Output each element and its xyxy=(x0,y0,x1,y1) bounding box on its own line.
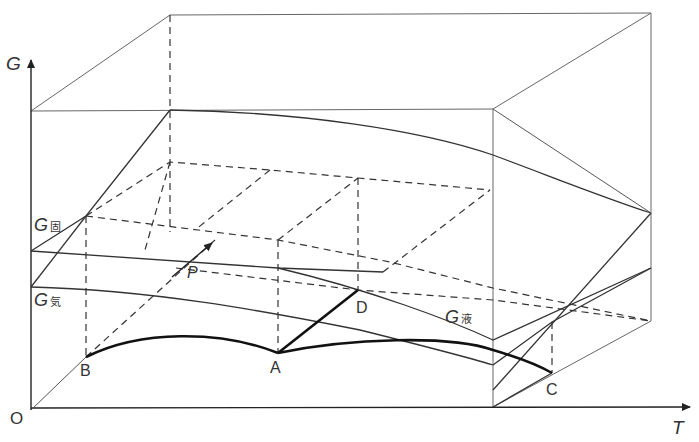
pressure-label: P xyxy=(187,265,198,281)
bounding-box xyxy=(31,13,651,407)
point-a-label: A xyxy=(270,360,281,376)
phase-diagram: G T O G固 G気 G液 A B C D P xyxy=(0,0,699,442)
point-c-label: C xyxy=(546,382,558,398)
g-liquid-label: G液 xyxy=(445,308,472,326)
surface-lines xyxy=(31,109,651,407)
coexistence-curve xyxy=(86,290,552,373)
t-axis xyxy=(31,407,690,408)
g-solid-label: G固 xyxy=(34,216,61,234)
origin-label: O xyxy=(10,410,23,427)
p-axis-front xyxy=(31,357,86,410)
diagram-canvas xyxy=(0,0,699,442)
point-d-label: D xyxy=(356,300,368,316)
t-axis-label: T xyxy=(672,418,684,437)
g-gas-label: G気 xyxy=(34,291,61,309)
dashed-guides xyxy=(86,15,651,373)
axes xyxy=(31,60,690,410)
g-axis-label: G xyxy=(6,54,21,73)
point-b-label: B xyxy=(80,363,91,379)
